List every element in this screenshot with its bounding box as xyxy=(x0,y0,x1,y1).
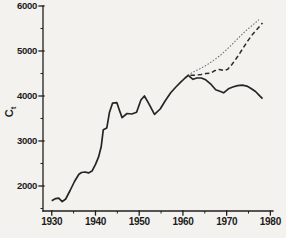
y-tick-label: 2000 xyxy=(17,180,37,191)
series-projection-dashed-line xyxy=(190,23,262,75)
y-tick-label: 4000 xyxy=(17,90,37,101)
x-tick-label: 1930 xyxy=(41,216,63,227)
x-tick-label: 1980 xyxy=(260,216,282,227)
series-actual-line xyxy=(52,75,263,201)
x-tick-label: 1960 xyxy=(172,216,194,227)
x-tick-label: 1950 xyxy=(129,216,151,227)
chart-figure: 2000300040005000600019301940195019601970… xyxy=(0,0,286,238)
y-tick-label: 3000 xyxy=(17,135,37,146)
y-axis-title: Ct xyxy=(0,102,19,122)
y-tick-label: 6000 xyxy=(17,0,37,11)
x-tick-label: 1970 xyxy=(216,216,238,227)
chart-canvas: 2000300040005000600019301940195019601970… xyxy=(0,0,286,238)
series-projection-dotted-line xyxy=(188,20,258,75)
x-tick-label: 1940 xyxy=(85,216,107,227)
y-tick-label: 5000 xyxy=(17,45,37,56)
